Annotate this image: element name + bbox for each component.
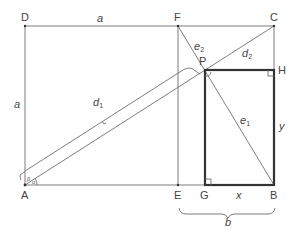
label-a-left: a bbox=[14, 98, 20, 110]
point-D bbox=[24, 25, 26, 27]
label-H: H bbox=[278, 64, 286, 76]
diagonal-AC bbox=[25, 26, 274, 185]
label-beta: β bbox=[26, 176, 31, 182]
label-E: E bbox=[174, 189, 181, 201]
label-e2: e2 bbox=[194, 40, 204, 53]
segment-FB bbox=[178, 26, 274, 185]
point-C bbox=[273, 25, 275, 27]
label-a-top: a bbox=[97, 12, 103, 24]
label-D: D bbox=[21, 11, 29, 23]
d1-tick bbox=[102, 121, 106, 124]
label-y: y bbox=[278, 120, 286, 132]
label-e1: e1 bbox=[240, 114, 250, 127]
label-G: G bbox=[200, 189, 209, 201]
geometry-diagram: D F C A E G B P H a a d1 d2 e1 e2 x y b … bbox=[0, 0, 300, 242]
label-A: A bbox=[21, 189, 29, 201]
label-d1: d1 bbox=[93, 96, 103, 109]
label-b: b bbox=[225, 216, 231, 228]
angle-arc-alpha bbox=[35, 178, 37, 185]
label-alpha: α bbox=[32, 179, 36, 185]
label-F: F bbox=[174, 11, 181, 23]
point-F bbox=[177, 25, 179, 27]
label-B: B bbox=[270, 189, 277, 201]
angle-arc-beta bbox=[20, 172, 25, 180]
label-x: x bbox=[235, 189, 242, 201]
point-E bbox=[177, 184, 179, 186]
label-P: P bbox=[199, 55, 206, 67]
point-A bbox=[24, 184, 27, 187]
label-C: C bbox=[270, 11, 278, 23]
d1-bracket bbox=[25, 68, 200, 171]
label-d2: d2 bbox=[242, 47, 252, 60]
